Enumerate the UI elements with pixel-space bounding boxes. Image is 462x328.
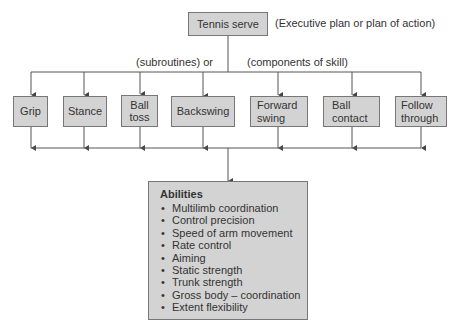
component-node-forward-swing: Forward swing xyxy=(250,96,308,127)
component-label: Ball toss xyxy=(129,99,149,124)
branch-label-components: (components of skill) xyxy=(247,56,348,68)
branch-label-subroutines: (subroutines) or xyxy=(136,56,213,68)
ability-item: Extent flexibility xyxy=(160,301,307,313)
ability-item: Rate control xyxy=(160,239,307,251)
abilities-list: Multilimb coordination Control precision… xyxy=(160,202,307,314)
component-label: Stance xyxy=(68,105,102,118)
ability-item: Trunk strength xyxy=(160,276,307,288)
abilities-box: Abilities Multilimb coordination Control… xyxy=(148,181,308,320)
component-node-grip: Grip xyxy=(13,96,48,127)
component-node-ball-contact: Ball contact xyxy=(323,96,380,127)
ability-item: Control precision xyxy=(160,214,307,226)
ability-item: Aiming xyxy=(160,252,307,264)
component-label: Ball contact xyxy=(332,99,371,124)
component-node-follow-through: Follow through xyxy=(395,96,447,127)
root-annotation: (Executive plan or plan of action) xyxy=(275,17,435,29)
ability-item: Multilimb coordination xyxy=(160,202,307,214)
component-node-ball-toss: Ball toss xyxy=(121,95,158,127)
component-node-stance: Stance xyxy=(63,96,107,127)
ability-item: Speed of arm movement xyxy=(160,227,307,239)
component-label: Follow through xyxy=(401,99,441,124)
ability-item: Gross body – coordination xyxy=(160,289,307,301)
root-node-tennis-serve: Tennis serve xyxy=(188,12,268,36)
component-label: Backswing xyxy=(177,105,230,118)
component-label: Grip xyxy=(20,105,41,118)
abilities-title: Abilities xyxy=(160,188,307,201)
root-node-label: Tennis serve xyxy=(197,18,259,31)
component-label: Forward swing xyxy=(257,99,301,124)
component-node-backswing: Backswing xyxy=(171,96,235,127)
ability-item: Static strength xyxy=(160,264,307,276)
